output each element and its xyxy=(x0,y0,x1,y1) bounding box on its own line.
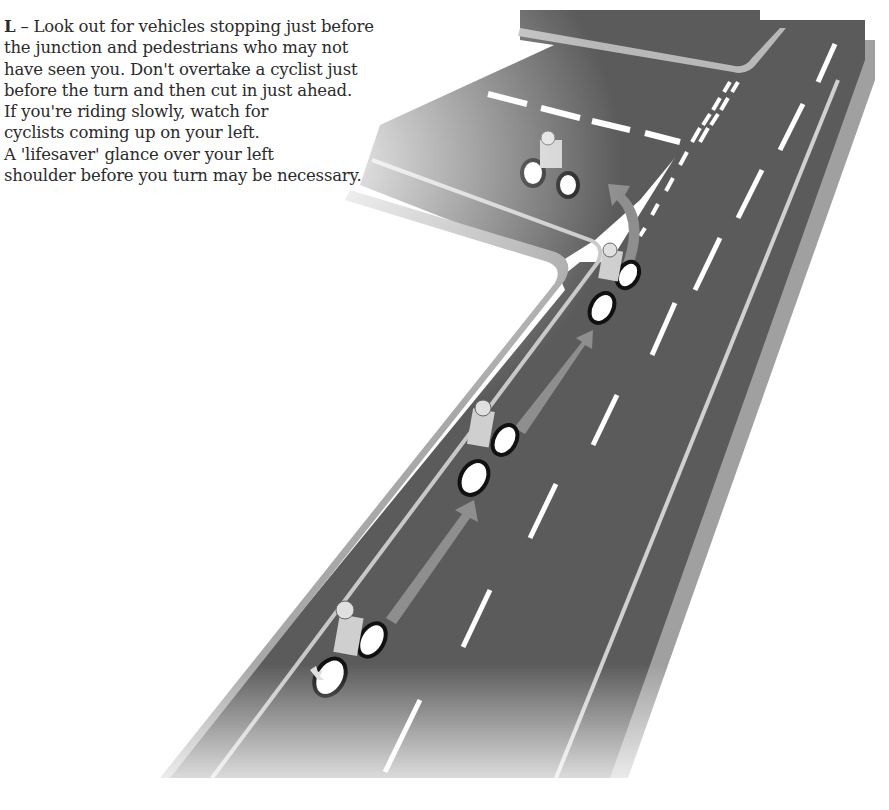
text-line-1: L – Look out for vehicles stopping just … xyxy=(4,16,404,37)
text-line-6: cyclists coming up on your left. xyxy=(4,122,404,143)
text-line-5: If you're riding slowly, watch for xyxy=(4,101,404,122)
text-line-7: A 'lifesaver' glance over your left xyxy=(4,144,404,165)
text-line-8: shoulder before you turn may be necessar… xyxy=(4,165,404,186)
text-line-2: the junction and pedestrians who may not xyxy=(4,37,404,58)
instruction-paragraph: L – Look out for vehicles stopping just … xyxy=(4,16,404,186)
text-line-4: before the turn and then cut in just ahe… xyxy=(4,80,404,101)
text-line-3: have seen you. Don't overtake a cyclist … xyxy=(4,59,404,80)
lead-letter: L xyxy=(4,17,15,36)
